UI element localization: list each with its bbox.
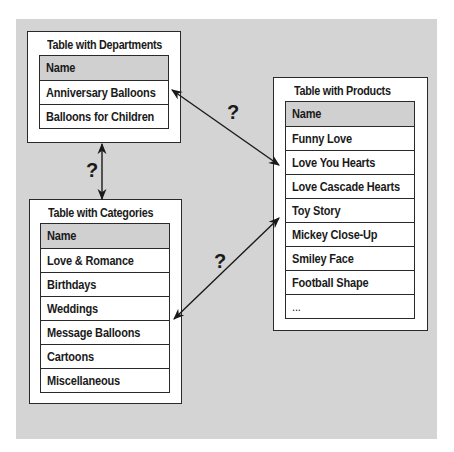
departments-header: Name [40,56,168,80]
categories-header: Name [41,224,169,248]
departments-row: Balloons for Children [40,104,168,128]
categories-row: Weddings [41,296,169,320]
departments-table-box: Table with Departments Name Anniversary … [27,31,181,143]
categories-row: Message Balloons [41,320,169,344]
products-row: Love Cascade Hearts [286,174,414,198]
products-row: Smiley Face [286,246,414,270]
dept-categories-question-mark: ? [86,159,98,182]
categories-table: Name Love & Romance Birthdays Weddings M… [40,223,170,393]
categories-title: Table with Categories [48,206,168,220]
products-table: Name Funny Love Love You Hearts Love Cas… [285,101,415,319]
products-row: Mickey Close-Up [286,222,414,246]
categories-row: Cartoons [41,344,169,368]
products-row: Football Shape [286,270,414,294]
products-title: Table with Products [294,84,414,98]
categories-row: Birthdays [41,272,169,296]
products-row: Funny Love [286,126,414,150]
products-row: Toy Story [286,198,414,222]
categories-row: Miscellaneous [41,368,169,392]
dept-products-question-mark: ? [227,101,239,124]
products-table-box: Table with Products Name Funny Love Love… [273,77,428,331]
departments-title: Table with Departments [47,38,167,52]
departments-table: Name Anniversary Balloons Balloons for C… [39,55,169,129]
departments-row: Anniversary Balloons [40,80,168,104]
products-row: Love You Hearts [286,150,414,174]
categories-table-box: Table with Categories Name Love & Romanc… [29,199,182,404]
categories-products-question-mark: ? [214,250,226,273]
products-header: Name [286,102,414,126]
products-row: ... [286,294,414,318]
categories-row: Love & Romance [41,248,169,272]
